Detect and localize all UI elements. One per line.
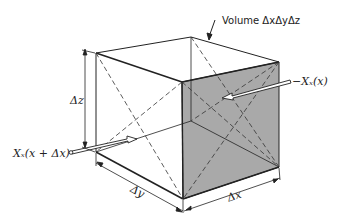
dx-label: Δx [224,187,243,204]
force-arrow-left [69,136,137,154]
dz-label: Δz [69,94,84,107]
dy-dimension [96,153,183,213]
force-right-label: −Xₓ(x) [292,75,328,88]
volume-label: Volume ΔxΔyΔz [222,15,300,26]
dy-label: Δy [127,182,147,201]
diagram-canvas: Volume ΔxΔyΔz Xₓ(x + Δx) −Xₓ(x) Δz Δy Δx [0,0,342,223]
force-left-label: Xₓ(x + Δx) [12,147,70,160]
dz-dimension [82,49,95,152]
volume-leader [207,20,215,40]
